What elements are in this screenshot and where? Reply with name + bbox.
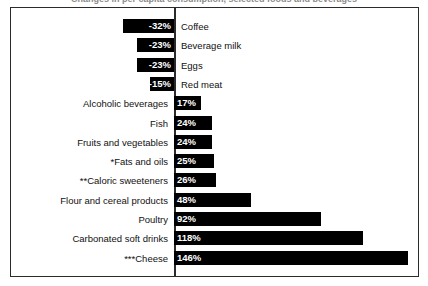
category-label: Flour and cereal products xyxy=(60,191,172,210)
bar: -23% xyxy=(137,58,174,72)
bar-value-label: 25% xyxy=(177,154,196,168)
bar: 48% xyxy=(174,193,251,207)
bar: 146% xyxy=(174,251,408,265)
chart-title-strip: Changes in per capita consumption, selec… xyxy=(0,0,428,7)
bar-value-label: 118% xyxy=(177,231,201,245)
category-label: ***Cheese xyxy=(124,249,172,268)
bar-value-label: -32% xyxy=(149,19,171,33)
bar: 24% xyxy=(174,116,212,130)
bar-value-label: -15% xyxy=(149,77,171,91)
chart-row: 24%Fish xyxy=(11,114,418,133)
bar-value-label: 26% xyxy=(177,173,196,187)
chart-row: -15%Red meat xyxy=(11,75,418,94)
bar: -32% xyxy=(123,19,174,33)
category-label: Eggs xyxy=(176,56,203,75)
plot-area: -32%Coffee-23%Beverage milk-23%Eggs-15%R… xyxy=(11,8,418,276)
bar: 118% xyxy=(174,231,363,245)
bar-value-label: 146% xyxy=(177,251,201,265)
bar: -23% xyxy=(137,38,174,52)
chart-row: 92%Poultry xyxy=(11,210,418,229)
bar-value-label: -23% xyxy=(149,58,171,72)
bar: -15% xyxy=(150,77,174,91)
category-label: **Caloric sweeteners xyxy=(80,171,172,190)
chart-row: -23%Eggs xyxy=(11,56,418,75)
category-label: *Fats and oils xyxy=(110,152,172,171)
chart-row: -23%Beverage milk xyxy=(11,36,418,55)
chart-row: 17%Alcoholic beverages xyxy=(11,94,418,113)
chart-row: 48%Flour and cereal products xyxy=(11,191,418,210)
category-label: Poultry xyxy=(138,210,172,229)
bar-value-label: 24% xyxy=(177,135,196,149)
chart-row: 118%Carbonated soft drinks xyxy=(11,229,418,248)
category-label: Alcoholic beverages xyxy=(83,94,172,113)
chart-row: 25%*Fats and oils xyxy=(11,152,418,171)
chart-row: 26%**Caloric sweeteners xyxy=(11,171,418,190)
bar-value-label: 48% xyxy=(177,193,196,207)
chart-row: 146%***Cheese xyxy=(11,249,418,268)
category-label: Beverage milk xyxy=(176,36,241,55)
bar: 92% xyxy=(174,212,321,226)
bar-value-label: -23% xyxy=(149,38,171,52)
chart-row: -32%Coffee xyxy=(11,17,418,36)
category-label: Fish xyxy=(150,114,172,133)
bar: 25% xyxy=(174,154,214,168)
category-label: Fruits and vegetables xyxy=(77,133,172,152)
category-label: Red meat xyxy=(176,75,222,94)
bar-value-label: 92% xyxy=(177,212,196,226)
bar-value-label: 24% xyxy=(177,116,196,130)
chart-row: 24%Fruits and vegetables xyxy=(11,133,418,152)
category-label: Carbonated soft drinks xyxy=(72,229,172,248)
bar: 26% xyxy=(174,173,216,187)
bar-value-label: 17% xyxy=(177,96,196,110)
chart-frame: -32%Coffee-23%Beverage milk-23%Eggs-15%R… xyxy=(10,7,419,277)
bar: 24% xyxy=(174,135,212,149)
chart-title: Changes in per capita consumption, selec… xyxy=(0,0,428,5)
bar: 17% xyxy=(174,96,201,110)
category-label: Coffee xyxy=(176,17,209,36)
